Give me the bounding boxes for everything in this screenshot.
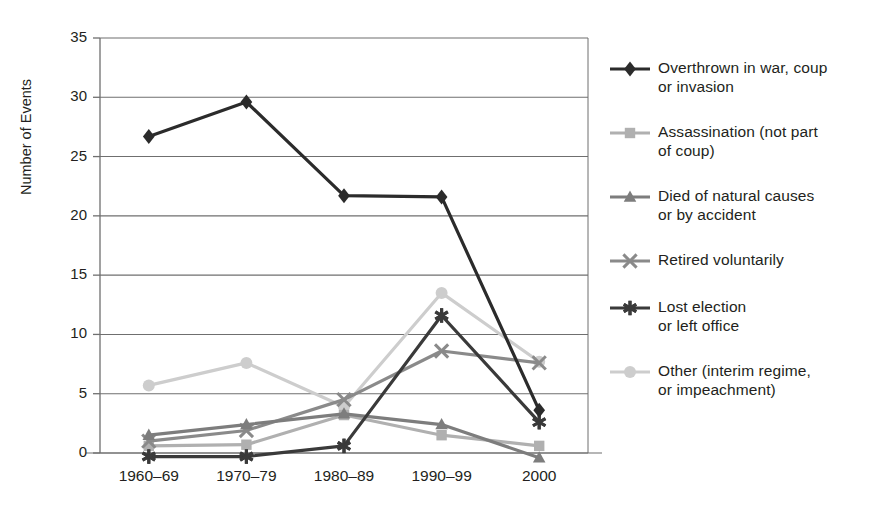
marker-circle <box>240 357 252 369</box>
legend-label: Died of natural causes or by accident <box>658 186 814 224</box>
marker-square <box>436 430 446 440</box>
legend-marker-circle-icon <box>608 362 652 382</box>
series-line <box>149 293 539 407</box>
y-tick-label: 35 <box>51 28 87 45</box>
legend-label: Assassination (not part of coup) <box>658 122 818 160</box>
legend-label: Other (interim regime, or impeachment) <box>658 361 811 399</box>
legend-label: Retired voluntarily <box>658 250 784 269</box>
marker-diamond <box>143 129 155 144</box>
legend-label: Overthrown in war, coup or invasion <box>658 58 827 96</box>
legend-label: Lost election or left office <box>658 297 746 335</box>
chart-legend: Overthrown in war, coup or invasionAssas… <box>608 58 881 425</box>
legend-marker-diamond-icon <box>608 59 652 79</box>
series-group <box>142 344 546 447</box>
y-axis-title: Number of Events <box>18 15 34 195</box>
marker-square <box>625 128 635 138</box>
y-tick-label: 5 <box>51 384 87 401</box>
line-chart-svg <box>0 0 610 520</box>
plot-area: Number of Events 051015202530351960–6919… <box>0 0 610 520</box>
series-group <box>143 95 545 418</box>
y-tick-label: 15 <box>51 265 87 282</box>
marker-circle <box>624 366 636 378</box>
y-tick-label: 10 <box>51 324 87 341</box>
legend-marker-triangle-icon <box>608 187 652 207</box>
marker-square <box>534 441 544 451</box>
x-tick-label: 2000 <box>489 467 589 485</box>
y-tick-label: 20 <box>51 206 87 223</box>
y-tick-label: 25 <box>51 147 87 164</box>
legend-marker-square-icon <box>608 123 652 143</box>
marker-circle <box>436 287 448 299</box>
legend-item[interactable]: Other (interim regime, or impeachment) <box>608 361 881 399</box>
series-line <box>149 102 539 410</box>
marker-diamond <box>624 62 636 77</box>
x-tick-label: 1990–99 <box>392 467 492 485</box>
legend-item[interactable]: Lost election or left office <box>608 297 881 335</box>
chart-figure: Number of Events 051015202530351960–6919… <box>0 0 881 520</box>
marker-square <box>241 440 251 450</box>
legend-item[interactable]: Overthrown in war, coup or invasion <box>608 58 881 96</box>
legend-marker-asterisk-icon <box>608 298 652 318</box>
x-tick-label: 1970–79 <box>196 467 296 485</box>
legend-marker-x-cross-icon <box>608 251 652 271</box>
y-tick-label: 30 <box>51 87 87 104</box>
y-tick-label: 0 <box>51 443 87 460</box>
x-tick-label: 1980–89 <box>294 467 394 485</box>
marker-circle <box>143 379 155 391</box>
legend-item[interactable]: Assassination (not part of coup) <box>608 122 881 160</box>
x-tick-label: 1960–69 <box>99 467 199 485</box>
legend-item[interactable]: Retired voluntarily <box>608 250 881 271</box>
legend-item[interactable]: Died of natural causes or by accident <box>608 186 881 224</box>
